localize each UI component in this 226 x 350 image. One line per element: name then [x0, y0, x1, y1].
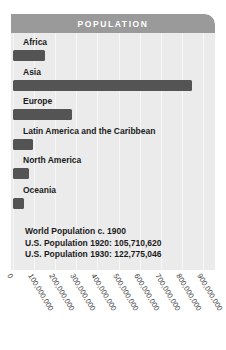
bar	[13, 109, 72, 120]
bar-label: Africa	[23, 37, 47, 47]
chart-annotations: World Population c. 1900U.S. Population …	[25, 226, 162, 261]
page-title: POPULATION	[77, 19, 148, 29]
bar	[13, 50, 45, 61]
bar	[13, 198, 24, 209]
bar	[13, 80, 192, 91]
bar	[13, 139, 33, 150]
x-axis-tick-labels: 0100,000,000200,000,000300,000,000400,00…	[11, 272, 226, 350]
bar-label: Europe	[23, 96, 52, 106]
plot-area: AfricaAsiaEuropeLatin America and the Ca…	[11, 33, 215, 270]
population-chart-card: POPULATION AfricaAsiaEuropeLatin America…	[11, 14, 215, 270]
chart-header: POPULATION	[11, 14, 215, 33]
annotation-line: World Population c. 1900	[25, 226, 162, 238]
bar-label: Oceania	[23, 185, 56, 195]
annotation-line: U.S. Population 1920: 105,710,620	[25, 238, 162, 250]
annotation-line: U.S. Population 1930: 122,775,046	[25, 249, 162, 261]
bar	[13, 168, 29, 179]
bar-label: Latin America and the Caribbean	[23, 126, 155, 136]
gridline	[182, 33, 183, 270]
bar-label: North America	[23, 155, 81, 165]
gridline	[13, 33, 14, 270]
gridline	[203, 33, 204, 270]
bar-label: Asia	[23, 67, 41, 77]
x-tick-label: 0	[5, 272, 15, 280]
